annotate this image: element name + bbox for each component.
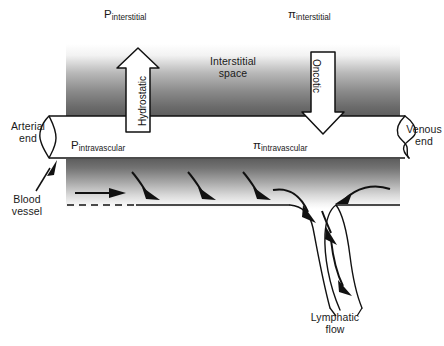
venous-end-line-2: end bbox=[404, 136, 444, 148]
p-interstitial-subscript: interstitial bbox=[112, 13, 147, 22]
label-lymphatic-flow: Lymphatic flow bbox=[300, 312, 370, 335]
label-interstitial-space: Interstitial space bbox=[193, 56, 273, 79]
label-blood-vessel: Blood vessel bbox=[5, 194, 49, 217]
label-venous-end: Venous end bbox=[404, 124, 444, 147]
label-pi-interstitial: πinterstitial bbox=[288, 9, 331, 22]
p-interstitial-symbol: P bbox=[104, 8, 112, 20]
label-pi-intravascular: πintravascular bbox=[253, 140, 307, 153]
pi-intravascular-subscript: intravascular bbox=[261, 144, 307, 153]
lymphatic-flow-line-1: Lymphatic bbox=[300, 312, 370, 324]
arterial-end-line-2: end bbox=[6, 133, 50, 145]
label-p-intravascular: Pintravascular bbox=[71, 140, 125, 153]
lymphatic-flow-line-2: flow bbox=[300, 324, 370, 336]
label-arterial-end: Arterial end bbox=[6, 121, 50, 144]
venous-end-line-1: Venous bbox=[404, 124, 444, 136]
interstitial-space-line-2: space bbox=[193, 68, 273, 80]
label-oncotic: Oncotic bbox=[311, 59, 322, 93]
label-hydrostatic: Hydrostatic bbox=[137, 76, 148, 126]
capillary-exchange-diagram: Pinterstitial πinterstitial Interstitial… bbox=[0, 0, 444, 346]
p-intravascular-subscript: intravascular bbox=[79, 144, 125, 153]
blood-vessel-line-2: vessel bbox=[5, 206, 49, 218]
interstitial-space-line-1: Interstitial bbox=[193, 56, 273, 68]
arterial-end-line-1: Arterial bbox=[6, 121, 50, 133]
lower-interstitium-band bbox=[66, 159, 400, 209]
pi-intravascular-symbol: π bbox=[253, 139, 261, 151]
blood-vessel-pointer bbox=[36, 160, 57, 191]
diagram-canvas bbox=[0, 0, 444, 346]
pi-interstitial-subscript: interstitial bbox=[296, 13, 331, 22]
blood-vessel-line-1: Blood bbox=[5, 194, 49, 206]
pi-interstitial-symbol: π bbox=[288, 8, 296, 20]
label-p-interstitial: Pinterstitial bbox=[104, 9, 146, 22]
p-intravascular-symbol: P bbox=[71, 139, 79, 151]
